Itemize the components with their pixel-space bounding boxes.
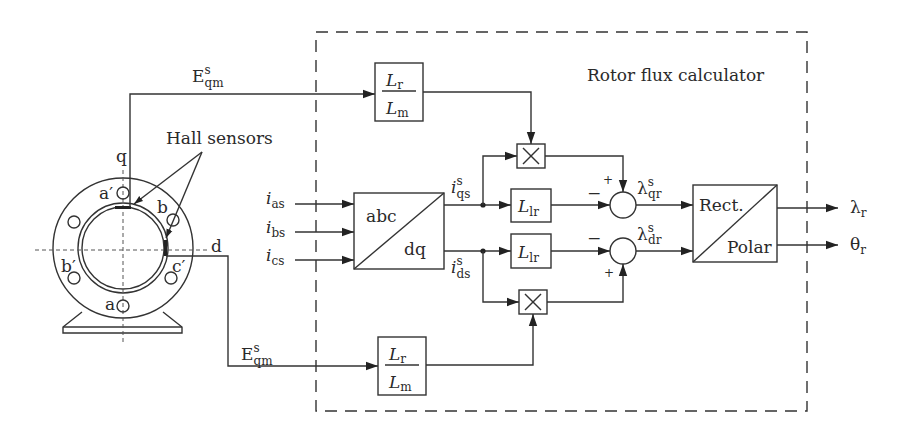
i-ds-label: isds (451, 254, 470, 281)
winding-label-a: a (105, 294, 115, 314)
i-bs-label: ibs (266, 217, 285, 240)
svg-text:−: − (587, 228, 601, 248)
svg-text:+: + (603, 173, 613, 187)
lambda-r-output: λr (850, 197, 867, 220)
calculator-title: Rotor flux calculator (587, 65, 765, 85)
llr-block-bottom: Llr (511, 234, 551, 268)
svg-text:abc: abc (366, 206, 397, 226)
gain-block-bottom: Lr Lm (378, 337, 426, 395)
hall-sensor-d (164, 240, 167, 256)
theta-r-output: θr (850, 234, 866, 257)
i-cs-label: ics (266, 245, 284, 268)
hall-sensors-label: Hall sensors (166, 128, 273, 148)
svg-text:−: − (587, 183, 601, 203)
lambda-qr-label: λsqr (637, 175, 662, 201)
winding-label-b: b (157, 197, 168, 217)
i-qs-label: isqs (451, 174, 470, 201)
hall-sensor-q (115, 206, 131, 209)
axis-q-label: q (116, 146, 127, 166)
rect-polar-block: Rect. Polar (693, 185, 777, 262)
multiplier-top (517, 144, 545, 168)
winding-label-a-prime: a′ (99, 183, 113, 203)
summer-d (610, 238, 636, 264)
winding-label-c-prime: c′ (172, 256, 186, 276)
multiplier-bottom (519, 290, 547, 314)
eqm-top-label: Esqm (192, 63, 224, 90)
summer-q (610, 192, 636, 218)
winding-label-b-prime: b′ (61, 256, 76, 276)
svg-text:Rect.: Rect. (699, 195, 744, 215)
wire-eqm-top (130, 94, 375, 207)
lambda-dr-label: λsdr (637, 221, 662, 247)
rotor-flux-diagram: Rotor flux calculator q d a′ b b′ c′ a H… (0, 0, 898, 431)
axis-d-label: d (211, 236, 222, 256)
abc-dq-transform-block: abc dq (354, 193, 444, 269)
eqm-bottom-label: Esqm (241, 341, 273, 368)
llr-block-top: Llr (511, 189, 551, 222)
gain-block-top: Lr Lm (375, 63, 423, 121)
svg-text:+: + (604, 266, 614, 280)
wire-eqm-bottom (166, 256, 378, 366)
svg-text:Polar: Polar (727, 237, 773, 257)
i-as-label: ias (266, 188, 285, 211)
svg-text:dq: dq (404, 239, 426, 259)
